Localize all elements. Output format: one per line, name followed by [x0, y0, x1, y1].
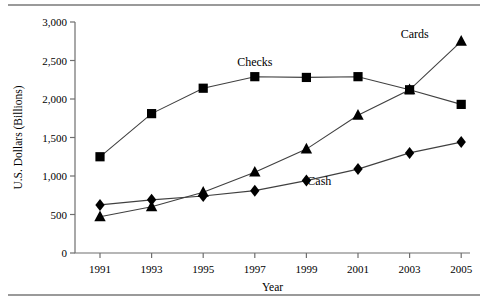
series-label-cards: Cards: [401, 27, 429, 41]
chart-figure: 05001,0001,5002,0002,5003,00019911993199…: [0, 0, 488, 308]
series-line-cards: [100, 41, 461, 217]
x-axis-tick-label: 1993: [141, 263, 164, 275]
x-axis-tick-label: 2003: [399, 263, 422, 275]
x-axis-tick-label: 1991: [89, 263, 111, 275]
data-point-checks: [457, 100, 466, 109]
y-axis-tick-label: 0: [62, 247, 68, 259]
x-axis-tick-label: 1999: [295, 263, 318, 275]
data-point-checks: [302, 73, 311, 82]
x-axis-tick-label: 1997: [244, 263, 267, 275]
x-axis-tick-label: 2001: [347, 263, 369, 275]
x-axis-tick-label: 1995: [192, 263, 215, 275]
series-label-cash: Cash: [307, 174, 331, 188]
data-point-checks: [95, 152, 104, 161]
data-point-checks: [353, 72, 362, 81]
series-label-checks: Checks: [237, 55, 273, 69]
line-chart-plot: 05001,0001,5002,0002,5003,00019911993199…: [0, 0, 488, 308]
data-point-cash: [250, 185, 259, 197]
y-axis-tick-label: 1,500: [42, 132, 67, 144]
data-point-cards: [197, 186, 208, 197]
data-point-cards: [455, 35, 466, 46]
data-point-cash: [95, 199, 104, 211]
y-axis-tick-label: 1,000: [42, 170, 67, 182]
x-axis-tick-label: 2005: [450, 263, 473, 275]
data-point-checks: [147, 109, 156, 118]
data-point-checks: [250, 72, 259, 81]
data-point-checks: [199, 84, 208, 93]
y-axis-tick-label: 3,000: [42, 16, 67, 28]
data-point-cash: [457, 136, 466, 148]
data-point-cash: [405, 147, 414, 159]
x-axis-title: Year: [262, 281, 283, 293]
data-point-cards: [301, 143, 312, 154]
y-axis-tick-label: 2,500: [42, 55, 67, 67]
chart-axes: [75, 22, 470, 253]
data-point-cash: [353, 163, 362, 175]
data-point-cards: [352, 109, 363, 120]
y-axis-tick-label: 500: [51, 209, 68, 221]
y-axis-tick-label: 2,000: [42, 93, 67, 105]
data-point-cards: [249, 166, 260, 177]
y-axis-title: U.S. Dollars (Billions): [12, 85, 25, 189]
